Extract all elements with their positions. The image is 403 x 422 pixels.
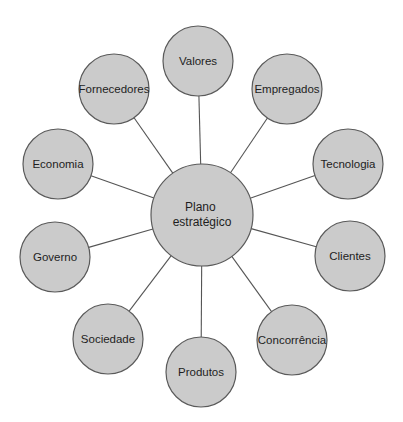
node-label: Fornecedores <box>79 83 150 95</box>
connector-line <box>134 118 173 173</box>
node-economia: Economia <box>23 129 93 199</box>
node-empregados: Empregados <box>252 54 322 124</box>
node-label: Governo <box>33 251 77 263</box>
node-label: Sociedade <box>81 333 135 345</box>
connector-line <box>250 176 315 199</box>
connector-line <box>251 229 316 247</box>
strategic-plan-diagram: ValoresEmpregadosTecnologiaClientesConco… <box>0 0 403 422</box>
connector-line <box>232 256 272 311</box>
connector-line <box>91 176 154 198</box>
connector-line <box>199 96 201 164</box>
connector-line <box>129 256 171 311</box>
hub-label-line2: estratégico <box>173 215 232 229</box>
node-label: Economia <box>32 158 84 170</box>
connector-line <box>231 118 268 173</box>
hub-node: Plano estratégico <box>151 164 253 266</box>
node-clientes: Clientes <box>315 221 385 291</box>
node-tecnologia: Tecnologia <box>313 129 383 199</box>
node-governo: Governo <box>20 222 90 292</box>
node-fornecedores: Fornecedores <box>79 54 150 124</box>
node-sociedade: Sociedade <box>73 304 143 374</box>
hub-label-line1: Plano <box>185 200 216 214</box>
node-valores: Valores <box>163 26 233 96</box>
node-label: Concorrência <box>258 334 327 346</box>
node-label: Produtos <box>178 366 224 378</box>
node-concorrencia: Concorrência <box>257 305 327 375</box>
node-label: Valores <box>179 55 217 67</box>
node-label: Clientes <box>329 250 371 262</box>
node-label: Tecnologia <box>321 158 377 170</box>
node-produtos: Produtos <box>166 337 236 407</box>
node-label: Empregados <box>254 83 319 95</box>
connector-line <box>89 229 153 247</box>
